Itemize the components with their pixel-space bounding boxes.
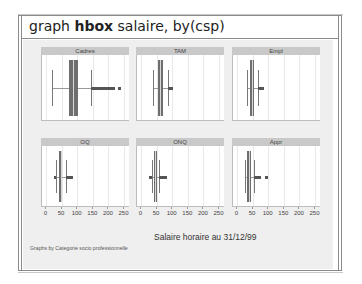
whisker-cap-low xyxy=(52,70,53,106)
gridline xyxy=(124,146,125,206)
x-tick-label: 50 xyxy=(153,210,160,216)
gridline xyxy=(219,146,220,206)
x-tick-mark xyxy=(202,207,203,209)
x-tick-mark xyxy=(107,207,108,209)
gridline xyxy=(268,146,269,206)
x-tick-mark xyxy=(187,207,188,209)
median-line xyxy=(160,60,161,115)
x-tick-mark xyxy=(218,207,219,209)
median-line xyxy=(61,151,62,202)
frame-bottom-rule xyxy=(18,272,343,273)
gridline xyxy=(219,55,220,120)
gridline xyxy=(188,146,189,206)
gridline xyxy=(299,55,300,120)
x-tick-label: 250 xyxy=(213,210,223,216)
gridline xyxy=(237,146,238,206)
panel-onq xyxy=(136,146,224,207)
outliers-high xyxy=(168,87,172,90)
x-tick-mark xyxy=(314,207,315,209)
x-tick-label: 250 xyxy=(309,210,319,216)
gridline xyxy=(124,55,125,120)
x-tick-mark xyxy=(298,207,299,209)
gridline xyxy=(268,55,269,120)
x-tick-label: 150 xyxy=(278,210,288,216)
outliers-high xyxy=(159,176,166,179)
command-keyword: hbox xyxy=(74,18,113,34)
outlier-point xyxy=(265,176,268,179)
whisker-cap-low xyxy=(153,70,154,106)
gridline xyxy=(284,146,285,206)
gridline xyxy=(315,146,316,206)
outliers-high xyxy=(66,176,73,179)
x-tick-label: 200 xyxy=(294,210,304,216)
whisker-cap-low xyxy=(56,160,57,194)
command-prefix: graph xyxy=(29,18,74,34)
x-tick-mark xyxy=(92,207,93,209)
panel-header-tam: TAM xyxy=(136,47,224,55)
outliers-low xyxy=(54,176,56,179)
panel-header-onq: ONQ xyxy=(136,138,224,146)
x-tick-label: 200 xyxy=(103,210,113,216)
x-tick-mark xyxy=(61,207,62,209)
gridline xyxy=(46,55,47,120)
x-tick-mark xyxy=(171,207,172,209)
x-tick-mark xyxy=(252,207,253,209)
x-tick-label: 100 xyxy=(263,210,273,216)
x-tick-label: 150 xyxy=(87,210,97,216)
x-tick-mark xyxy=(283,207,284,209)
gridline xyxy=(141,146,142,206)
outliers-high xyxy=(91,87,114,90)
whisker-cap-low xyxy=(247,70,248,106)
gridline xyxy=(203,55,204,120)
x-tick-label: 100 xyxy=(72,210,82,216)
x-tick-mark xyxy=(236,207,237,209)
panel-header-appr: Appr xyxy=(232,138,320,146)
gridline xyxy=(315,55,316,120)
panel-oq xyxy=(41,146,129,207)
outliers-high xyxy=(254,176,261,179)
x-tick-mark xyxy=(76,207,77,209)
panel-header-empl: Empl xyxy=(232,47,320,55)
x-tick-label: 0 xyxy=(139,210,142,216)
gridline xyxy=(299,146,300,206)
x-tick-label: 250 xyxy=(118,210,128,216)
outlier-point xyxy=(118,87,121,90)
x-tick-label: 50 xyxy=(249,210,256,216)
x-tick-label: 0 xyxy=(235,210,238,216)
gridline xyxy=(46,146,47,206)
outliers-low xyxy=(149,176,152,179)
gridline xyxy=(108,146,109,206)
x-tick-label: 100 xyxy=(167,210,177,216)
x-tick-label: 150 xyxy=(182,210,192,216)
median-line xyxy=(73,60,74,115)
x-tick-mark xyxy=(267,207,268,209)
x-tick-label: 200 xyxy=(198,210,208,216)
gridline xyxy=(284,55,285,120)
gridline xyxy=(172,146,173,206)
x-axis-title: Salaire horaire au 31/12/99 xyxy=(154,232,257,242)
command-bar: graph hbox salaire, by(csp) xyxy=(22,16,338,39)
gridline xyxy=(141,55,142,120)
x-tick-mark xyxy=(45,207,46,209)
whisker-cap-low xyxy=(245,160,246,194)
panel-appr xyxy=(232,146,320,207)
outliers-high xyxy=(258,87,263,90)
median-line xyxy=(249,151,250,202)
x-tick-mark xyxy=(140,207,141,209)
gridline xyxy=(93,146,94,206)
gridline xyxy=(77,146,78,206)
panel-cadres xyxy=(41,55,129,121)
x-tick-mark xyxy=(156,207,157,209)
gridline xyxy=(203,146,204,206)
x-tick-mark xyxy=(123,207,124,209)
panel-tam xyxy=(136,55,224,121)
panel-header-oq: OQ xyxy=(41,138,129,146)
whisker-cap-low xyxy=(152,160,153,194)
gridline xyxy=(188,55,189,120)
graph-note: Graphs by Categorie socio professionnell… xyxy=(30,245,128,251)
median-line xyxy=(252,60,253,115)
median-line xyxy=(155,151,156,202)
gridline xyxy=(237,55,238,120)
panel-header-cadres: Cadres xyxy=(41,47,129,55)
command-suffix: salaire, by(csp) xyxy=(113,18,225,34)
